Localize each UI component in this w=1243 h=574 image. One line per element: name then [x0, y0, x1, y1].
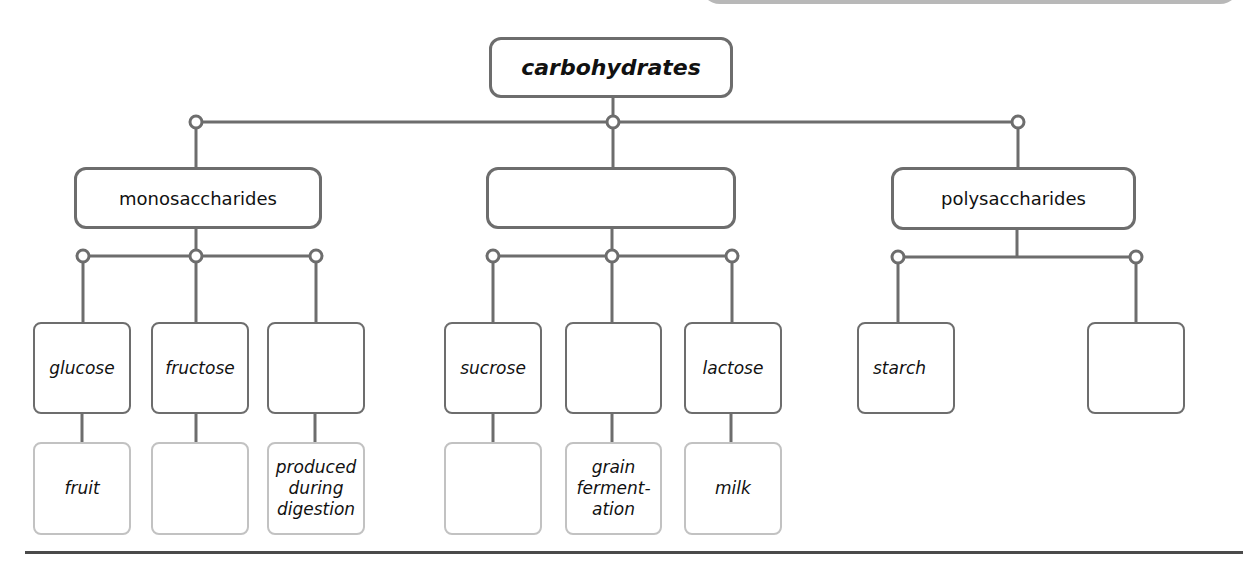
category-node-blank — [486, 167, 736, 229]
source-label: milk — [715, 478, 751, 499]
source-label: produced during digestion — [275, 457, 357, 520]
source-label: grain ferment- ation — [576, 457, 650, 520]
source-node-blank — [151, 442, 249, 535]
item-label: sucrose — [460, 358, 526, 378]
source-node-milk: milk — [684, 442, 782, 535]
category-node-polysaccharides: polysaccharides — [891, 167, 1136, 230]
category-label: monosaccharides — [119, 188, 277, 209]
item-node-fructose: fructose — [151, 322, 249, 414]
source-label: fruit — [64, 478, 99, 499]
bottom-divider — [25, 551, 1243, 554]
item-node-lactose: lactose — [684, 322, 782, 414]
source-node-digestion: produced during digestion — [267, 442, 365, 535]
item-label: starch — [873, 358, 926, 378]
item-node-glucose: glucose — [33, 322, 131, 414]
root-label: carbohydrates — [521, 55, 701, 80]
item-label: fructose — [165, 358, 234, 378]
category-node-monosaccharides: monosaccharides — [74, 167, 322, 229]
item-node-blank — [565, 322, 662, 414]
item-node-blank — [1087, 322, 1185, 414]
item-label: glucose — [49, 358, 114, 378]
source-node-grain-fermentation: grain ferment- ation — [565, 442, 662, 535]
source-node-fruit: fruit — [33, 442, 131, 535]
item-label: lactose — [703, 358, 764, 378]
root-node-carbohydrates: carbohydrates — [489, 37, 733, 98]
item-node-starch: starch — [857, 322, 955, 414]
category-label: polysaccharides — [941, 188, 1086, 209]
item-node-sucrose: sucrose — [444, 322, 542, 414]
source-node-blank — [444, 442, 542, 535]
item-node-blank — [267, 322, 365, 414]
